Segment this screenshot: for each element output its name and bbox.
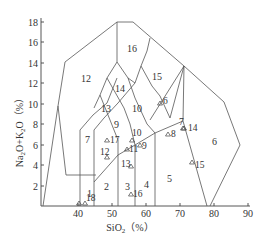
sample-label-15: 15 bbox=[195, 160, 205, 170]
sample-label-16: 16 bbox=[133, 189, 143, 199]
field-label-10: 10 bbox=[132, 103, 142, 114]
svg-text:12: 12 bbox=[28, 78, 38, 89]
svg-text:80: 80 bbox=[209, 208, 219, 219]
sample-label-7: 7 bbox=[179, 117, 184, 127]
svg-text:90: 90 bbox=[243, 208, 253, 219]
svg-text:8: 8 bbox=[33, 119, 38, 130]
sample-marker-15 bbox=[190, 160, 195, 164]
field-label-13: 13 bbox=[101, 103, 111, 114]
sample-label-12: 12 bbox=[100, 147, 110, 157]
y-tick-labels: 2 4 6 8 10 12 14 16 18 bbox=[28, 17, 38, 192]
svg-text:4: 4 bbox=[33, 160, 38, 171]
svg-text:2: 2 bbox=[33, 181, 38, 192]
svg-text:50: 50 bbox=[107, 208, 117, 219]
sample-marker bbox=[77, 201, 82, 205]
x-axis-title: SiO2（%） bbox=[106, 222, 153, 235]
x-tick-labels: 40 50 60 70 80 90 bbox=[73, 208, 253, 219]
field-label-7: 7 bbox=[85, 134, 90, 145]
field-boundaries bbox=[43, 22, 240, 206]
field-label-16: 16 bbox=[127, 43, 137, 54]
sample-label-9: 9 bbox=[142, 141, 147, 151]
field-label-6: 6 bbox=[212, 136, 217, 147]
sample-label-10: 10 bbox=[132, 128, 142, 138]
svg-text:6: 6 bbox=[33, 140, 38, 151]
svg-text:10: 10 bbox=[28, 99, 38, 110]
sample-marker-8 bbox=[166, 132, 171, 136]
field-label-14: 14 bbox=[115, 83, 125, 94]
field-label-4: 4 bbox=[144, 179, 149, 190]
sample-label-14: 14 bbox=[188, 123, 198, 133]
sample-label-8: 8 bbox=[171, 129, 176, 139]
svg-text:40: 40 bbox=[73, 208, 83, 219]
field-label-9: 9 bbox=[114, 119, 119, 130]
svg-text:70: 70 bbox=[175, 208, 185, 219]
sample-label-18: 18 bbox=[86, 193, 96, 203]
sample-label-13: 13 bbox=[121, 159, 131, 169]
field-label-5: 5 bbox=[167, 173, 172, 184]
y-axis-title: Na2O+K2O（%） bbox=[14, 93, 27, 167]
svg-text:18: 18 bbox=[28, 17, 38, 28]
sample-label-17: 17 bbox=[110, 135, 120, 145]
field-label-15: 15 bbox=[152, 71, 162, 82]
field-label-2: 2 bbox=[104, 181, 109, 192]
field-label-3: 3 bbox=[125, 181, 130, 192]
sample-marker-17 bbox=[105, 138, 110, 142]
svg-text:60: 60 bbox=[141, 208, 151, 219]
svg-text:16: 16 bbox=[28, 37, 38, 48]
svg-text:14: 14 bbox=[28, 58, 38, 69]
sample-label-6: 6 bbox=[163, 96, 168, 106]
tas-diagram: 2 4 6 8 10 12 14 16 18 40 50 60 70 80 90… bbox=[0, 0, 270, 237]
sample-label-11: 11 bbox=[129, 144, 138, 154]
field-label-12: 12 bbox=[81, 73, 91, 84]
